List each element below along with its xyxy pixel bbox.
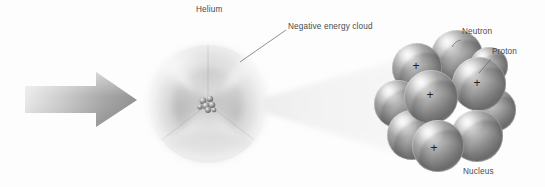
helium-atom-cloud — [150, 38, 266, 168]
helium-atom-diagram: ++++ Helium Negative energy cloud Neutro… — [0, 0, 545, 187]
incoming-beam-arrow — [25, 72, 137, 127]
cloud-leader-line — [240, 30, 286, 62]
proton-charge-symbol: + — [426, 88, 433, 102]
label-nucleus: Nucleus — [463, 167, 494, 177]
label-proton: Proton — [492, 47, 517, 57]
proton-charge-symbol: + — [473, 76, 480, 90]
label-negative-energy-cloud: Negative energy cloud — [288, 22, 373, 32]
proton-sphere: + — [412, 120, 464, 172]
proton-sphere: + — [452, 57, 506, 111]
label-helium: Helium — [196, 5, 222, 15]
proton-charge-symbol: + — [430, 141, 437, 155]
proton-sphere: + — [404, 70, 458, 124]
label-neutron: Neutron — [462, 27, 492, 37]
proton-charge-symbol: + — [412, 59, 419, 73]
